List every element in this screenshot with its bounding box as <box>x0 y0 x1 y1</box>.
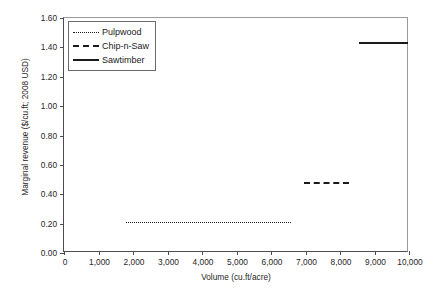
x-tick-1: 1,000 <box>99 251 100 255</box>
y-tick-label-5: 1.00 <box>25 101 57 111</box>
solid-line-swatch-icon <box>73 59 99 61</box>
x-tick-0: 0 <box>64 251 65 255</box>
series-line-chip-n-saw <box>304 182 349 184</box>
x-tick-2: 2,000 <box>133 251 134 255</box>
x-axis-title: Volume (cu.ft/acre) <box>63 272 409 282</box>
x-tick-label-7: 7,000 <box>296 257 317 267</box>
y-tick-6: 1.20 <box>60 77 64 78</box>
x-tick-label-2: 2,000 <box>124 257 145 267</box>
x-tick-label-3: 3,000 <box>158 257 179 267</box>
x-tick-5: 5,000 <box>237 251 238 255</box>
x-tick-9: 9,000 <box>375 251 376 255</box>
legend-label-pulpwood: Pulpwood <box>102 28 142 37</box>
x-tick-label-0: 0 <box>63 257 68 267</box>
y-tick-label-1: 0.20 <box>25 219 57 229</box>
series-line-pulpwood <box>126 222 292 223</box>
y-tick-3: 0.60 <box>60 165 64 166</box>
y-tick-1: 0.20 <box>60 224 64 225</box>
x-tick-label-6: 6,000 <box>262 257 283 267</box>
chart-legend: Pulpwood Chip-n-Saw Sawtimber <box>68 21 156 71</box>
y-tick-4: 0.80 <box>60 136 64 137</box>
chart-figure: Marginal revenue ($/cu.ft; 2008 USD) Vol… <box>0 0 446 293</box>
x-tick-10: 10,000 <box>409 251 410 255</box>
legend-label-sawtimber: Sawtimber <box>102 56 145 65</box>
y-tick-8: 1.60 <box>60 18 64 19</box>
y-tick-7: 1.40 <box>60 47 64 48</box>
y-tick-label-3: 0.60 <box>25 160 57 170</box>
x-tick-3: 3,000 <box>168 251 169 255</box>
y-tick-label-4: 0.80 <box>25 131 57 141</box>
legend-item-pulpwood: Pulpwood <box>73 25 149 39</box>
x-tick-label-10: 10,000 <box>397 257 422 267</box>
dotted-line-swatch-icon <box>73 32 99 33</box>
y-tick-5: 1.00 <box>60 106 64 107</box>
x-tick-label-9: 9,000 <box>365 257 386 267</box>
y-tick-2: 0.40 <box>60 194 64 195</box>
x-tick-label-5: 5,000 <box>227 257 248 267</box>
y-tick-label-8: 1.60 <box>25 13 57 23</box>
x-tick-label-4: 4,000 <box>193 257 214 267</box>
y-tick-label-2: 0.40 <box>25 189 57 199</box>
y-tick-label-0: 0.00 <box>25 248 57 258</box>
legend-item-sawtimber: Sawtimber <box>73 53 149 67</box>
y-tick-label-6: 1.20 <box>25 72 57 82</box>
y-tick-label-7: 1.40 <box>25 42 57 52</box>
x-tick-6: 6,000 <box>271 251 272 255</box>
x-tick-8: 8,000 <box>340 251 341 255</box>
legend-label-chip-n-saw: Chip-n-Saw <box>102 42 149 51</box>
series-line-sawtimber <box>359 42 408 44</box>
x-tick-7: 7,000 <box>306 251 307 255</box>
x-tick-label-1: 1,000 <box>89 257 110 267</box>
x-tick-label-8: 8,000 <box>331 257 352 267</box>
legend-item-chip-n-saw: Chip-n-Saw <box>73 39 149 53</box>
dashed-line-swatch-icon <box>73 45 99 47</box>
x-tick-4: 4,000 <box>202 251 203 255</box>
